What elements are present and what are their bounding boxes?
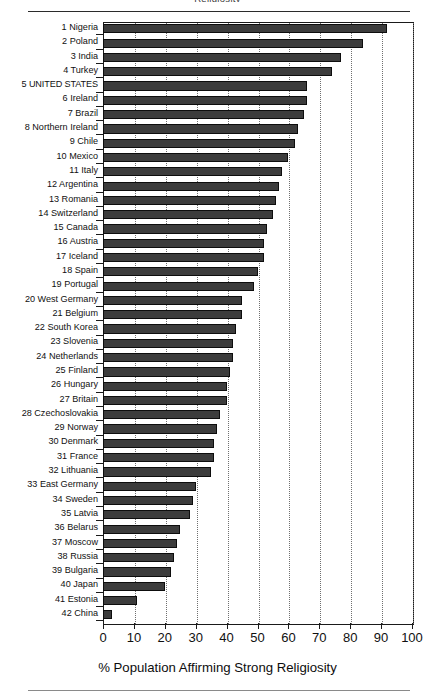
bar — [103, 282, 254, 291]
category-label: 8 Northern Ireland — [0, 121, 103, 134]
bar-row: 36 Belarus — [103, 522, 412, 536]
bar — [103, 396, 227, 405]
bar-row: 25 Finland — [103, 365, 412, 379]
bar — [103, 81, 307, 90]
category-label: 13 Romania — [0, 193, 103, 206]
bar-row: 21 Belgium — [103, 308, 412, 322]
bar-row: 15 Canada — [103, 222, 412, 236]
x-tick-40 — [227, 623, 228, 629]
bar-row: 37 Moscow — [103, 537, 412, 551]
bar — [103, 324, 236, 333]
bar-row: 13 Romania — [103, 194, 412, 208]
bar — [103, 24, 387, 33]
category-label: 17 Iceland — [0, 250, 103, 263]
bar-row: 34 Sweden — [103, 494, 412, 508]
category-label: 32 Lithuania — [0, 464, 103, 477]
bar-row: 40 Japan — [103, 579, 412, 593]
gridline-100 — [413, 23, 414, 624]
category-label: 41 Estonia — [0, 593, 103, 606]
bar-row: 5 UNITED STATES — [103, 79, 412, 93]
category-label: 20 West Germany — [0, 293, 103, 306]
bar — [103, 339, 233, 348]
bar — [103, 153, 288, 162]
bar — [103, 353, 233, 362]
category-label: 25 Finland — [0, 364, 103, 377]
category-label: 14 Switzerland — [0, 207, 103, 220]
x-tick-50 — [258, 623, 259, 629]
bar — [103, 453, 214, 462]
category-label: 3 India — [0, 50, 103, 63]
bar — [103, 39, 363, 48]
bar-row: 30 Denmark — [103, 436, 412, 450]
bar-row: 1 Nigeria — [103, 22, 412, 36]
x-tick-100 — [412, 623, 413, 629]
category-label: 19 Portugal — [0, 278, 103, 291]
category-label: 5 UNITED STATES — [0, 78, 103, 91]
bar-row: 12 Argentina — [103, 179, 412, 193]
bar — [103, 182, 279, 191]
bar-row: 27 Britain — [103, 394, 412, 408]
x-tick-label: 100 — [392, 630, 432, 645]
category-label: 26 Hungary — [0, 378, 103, 391]
category-label: 16 Austria — [0, 235, 103, 248]
bar — [103, 424, 217, 433]
bar-row: 26 Hungary — [103, 379, 412, 393]
bar — [103, 610, 112, 619]
bar-row: 2 Poland — [103, 36, 412, 50]
bar — [103, 167, 282, 176]
bar — [103, 96, 307, 105]
bar — [103, 482, 196, 491]
bar-row: 20 West Germany — [103, 294, 412, 308]
bar — [103, 196, 276, 205]
bar-row: 33 East Germany — [103, 479, 412, 493]
x-tick-90 — [381, 623, 382, 629]
bar-row: 10 Mexico — [103, 151, 412, 165]
bar — [103, 382, 227, 391]
category-label: 35 Latvia — [0, 507, 103, 520]
bar — [103, 467, 211, 476]
bar-row: 19 Portugal — [103, 279, 412, 293]
x-tick-60 — [288, 623, 289, 629]
bar-row: 42 China — [103, 608, 412, 622]
category-label: 21 Belgium — [0, 307, 103, 320]
bar — [103, 239, 264, 248]
bar-row: 35 Latvia — [103, 508, 412, 522]
bar — [103, 596, 137, 605]
bar-row: 28 Czechoslovakia — [103, 408, 412, 422]
category-label: 37 Moscow — [0, 536, 103, 549]
bar — [103, 267, 258, 276]
bar — [103, 367, 230, 376]
bar — [103, 139, 295, 148]
category-label: 6 Ireland — [0, 92, 103, 105]
bar-row: 39 Bulgaria — [103, 565, 412, 579]
category-label: 2 Poland — [0, 35, 103, 48]
bar-row: 9 Chile — [103, 136, 412, 150]
category-label: 29 Norway — [0, 421, 103, 434]
bar-row: 29 Norway — [103, 422, 412, 436]
category-label: 4 Turkey — [0, 64, 103, 77]
bar-row: 7 Brazil — [103, 108, 412, 122]
x-tick-80 — [350, 623, 351, 629]
bar-row: 41 Estonia — [103, 594, 412, 608]
bar — [103, 539, 177, 548]
category-label: 11 Italy — [0, 164, 103, 177]
category-label: 10 Mexico — [0, 150, 103, 163]
bar — [103, 224, 267, 233]
category-label: 1 Nigeria — [0, 21, 103, 34]
bar-row: 6 Ireland — [103, 93, 412, 107]
bar — [103, 510, 190, 519]
category-label: 38 Russia — [0, 550, 103, 563]
bar-row: 4 Turkey — [103, 65, 412, 79]
bar-row: 3 India — [103, 51, 412, 65]
bar — [103, 53, 341, 62]
bar — [103, 439, 214, 448]
x-tick-10 — [134, 623, 135, 629]
category-label: 9 Chile — [0, 135, 103, 148]
bar-row: 18 Spain — [103, 265, 412, 279]
page-header-clipped-text: Religiosity — [0, 0, 435, 2]
bar — [103, 296, 242, 305]
category-tick — [96, 620, 103, 621]
bar — [103, 582, 165, 591]
category-label: 34 Sweden — [0, 493, 103, 506]
category-label: 28 Czechoslovakia — [0, 407, 103, 420]
